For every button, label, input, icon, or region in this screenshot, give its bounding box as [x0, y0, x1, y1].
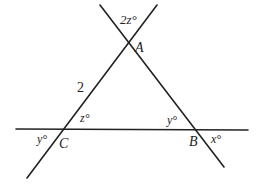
angle-label-x: x° [210, 132, 221, 146]
side-length-label: 2 [77, 80, 84, 95]
angle-label-y-at-b: y° [166, 113, 177, 127]
angle-label-2z: 2z° [120, 12, 137, 27]
line-cb [16, 129, 248, 130]
line-ac [27, 5, 157, 178]
lines [16, 5, 248, 178]
triangle-diagram: 2z° A 2 z° y° C y° B x° [0, 0, 260, 187]
angle-label-z: z° [79, 111, 90, 125]
vertex-label-c: C [59, 136, 69, 151]
line-ab [100, 5, 224, 167]
angle-label-y-at-c: y° [36, 132, 47, 146]
vertex-label-b: B [189, 134, 198, 149]
vertex-label-a: A [134, 40, 144, 55]
